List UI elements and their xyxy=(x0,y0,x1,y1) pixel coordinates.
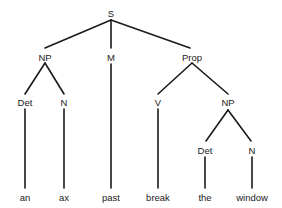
node-np1: NP xyxy=(38,52,51,63)
edge-np1-det1 xyxy=(25,63,45,94)
node-det1: Det xyxy=(18,97,33,108)
node-det2: Det xyxy=(198,145,213,156)
edge-np1-n1 xyxy=(45,63,64,94)
edge-s-prop xyxy=(111,20,190,48)
node-ax: ax xyxy=(59,192,69,203)
tree-edges xyxy=(25,20,252,188)
node-m: M xyxy=(107,52,115,63)
edge-prop-v xyxy=(158,63,192,94)
edge-s-np1 xyxy=(45,20,111,48)
node-the: the xyxy=(198,192,211,203)
edge-prop-np2 xyxy=(192,63,228,94)
node-v: V xyxy=(155,97,162,108)
node-n2: N xyxy=(249,145,256,156)
node-np2: NP xyxy=(221,97,234,108)
node-s: S xyxy=(108,8,114,19)
tree-nodes: SNPMPropDetNVNPDetNanaxpastbreakthewindo… xyxy=(18,8,268,203)
node-n1: N xyxy=(61,97,68,108)
node-an: an xyxy=(20,192,31,203)
node-prop: Prop xyxy=(182,52,202,63)
syntax-tree: SNPMPropDetNVNPDetNanaxpastbreakthewindo… xyxy=(0,0,282,208)
node-window: window xyxy=(235,192,268,203)
node-past: past xyxy=(102,192,120,203)
node-break: break xyxy=(146,192,170,203)
edge-np2-det2 xyxy=(206,110,228,141)
edge-np2-n2 xyxy=(228,110,251,141)
